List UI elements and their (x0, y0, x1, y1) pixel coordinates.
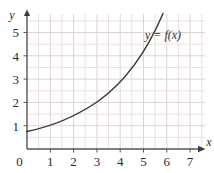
y-tick-label: 3 (13, 72, 20, 87)
x-tick-labels: 0 1 2 3 4 5 6 7 (16, 154, 194, 169)
x-tick-label: 2 (70, 154, 77, 169)
x-axis-name: x (205, 135, 212, 149)
x-tick-label: 7 (187, 154, 194, 169)
x-tick-label: 3 (94, 154, 101, 169)
y-tick-labels: 1 2 3 4 5 (13, 25, 20, 133)
x-tick-label: 6 (164, 154, 171, 169)
x-tick-label: 1 (47, 154, 54, 169)
y-tick-label: 2 (13, 95, 20, 110)
x-tick-label: 5 (140, 154, 147, 169)
curve-label: y = f(x) (144, 28, 181, 42)
graph-canvas: 0 1 2 3 4 5 6 7 1 2 3 4 5 y x y = f(x) (0, 0, 214, 173)
y-tick-label: 5 (13, 25, 20, 40)
x-tick-label: 0 (16, 154, 23, 169)
y-axis-arrow (24, 10, 30, 17)
y-tick-label: 1 (13, 119, 20, 134)
graph-figure: 0 1 2 3 4 5 6 7 1 2 3 4 5 y x y = f(x) (0, 0, 214, 173)
y-axis-name: y (8, 8, 15, 22)
y-tick-label: 4 (13, 49, 20, 64)
x-tick-label: 4 (117, 154, 124, 169)
